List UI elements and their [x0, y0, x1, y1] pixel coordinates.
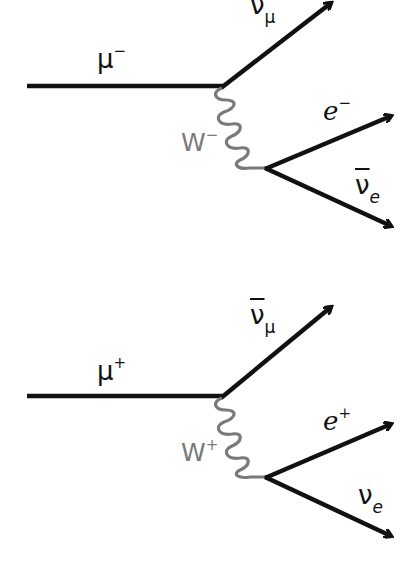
- feynman-diagrams-canvas: [0, 0, 414, 568]
- label-symbol: W: [181, 128, 206, 157]
- label-charge: +: [114, 354, 127, 372]
- label-symbol: ν: [250, 0, 265, 20]
- label-charge: −: [338, 94, 351, 112]
- label-anti-nu-mu: νμ: [250, 302, 275, 328]
- label-charge: +: [206, 436, 219, 454]
- anti-nu-mu-line: [221, 307, 331, 398]
- label-symbol: ν: [358, 480, 373, 510]
- label-symbol: e: [323, 406, 338, 436]
- label-positron: e+: [323, 408, 351, 434]
- label-w-plus: W+: [181, 440, 218, 465]
- label-nu-e: νe: [358, 482, 383, 508]
- w-minus-wavy-line: [216, 88, 266, 168]
- label-subscript: e: [373, 497, 383, 517]
- label-charge: −: [206, 126, 219, 144]
- label-symbol: μ: [97, 356, 114, 386]
- label-charge: +: [338, 404, 351, 422]
- label-symbol: μ: [97, 44, 114, 74]
- label-symbol: e: [323, 96, 338, 126]
- label-symbol: ν: [355, 170, 370, 200]
- label-symbol: ν: [250, 300, 265, 330]
- label-charge: −: [114, 42, 127, 60]
- label-w-minus: W−: [181, 130, 218, 155]
- label-muon-plus: μ+: [97, 358, 126, 384]
- label-subscript: e: [370, 187, 380, 207]
- label-nu-mu: νμ: [250, 0, 275, 18]
- w-plus-wavy-line: [216, 398, 266, 477]
- label-anti-nu-e: νe: [355, 172, 380, 198]
- label-electron-minus: e−: [323, 98, 351, 124]
- label-symbol: W: [181, 438, 206, 467]
- label-subscript: μ: [265, 317, 276, 337]
- label-subscript: μ: [265, 7, 276, 27]
- label-muon-minus: μ−: [97, 46, 126, 72]
- nu-mu-line: [221, 3, 331, 88]
